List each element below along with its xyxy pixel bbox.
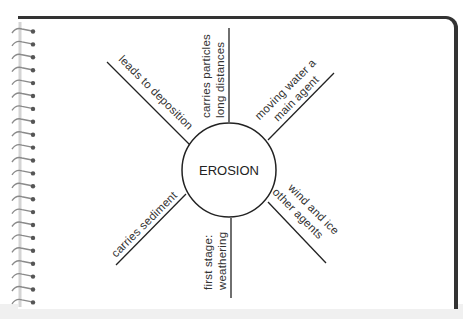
spoke-label-bottom-1: first stage: <box>202 235 214 290</box>
spoke-label-bottom-left: carries sediment <box>109 189 180 260</box>
spoke-label-top-left: leads to deposition <box>117 53 196 132</box>
center-label: EROSION <box>199 163 259 178</box>
erosion-concept-map: EROSION carries particles long distances… <box>0 0 463 319</box>
spoke-label-top-1: carries particles <box>200 34 212 118</box>
spoke-line-bottom-left <box>116 194 186 265</box>
spoke-label-top-2: long distances <box>214 42 226 118</box>
spoke-line-top-left <box>107 62 190 145</box>
spoke-label-bottom-2: weathering <box>216 232 228 291</box>
spoke-line-top-right <box>268 73 334 140</box>
